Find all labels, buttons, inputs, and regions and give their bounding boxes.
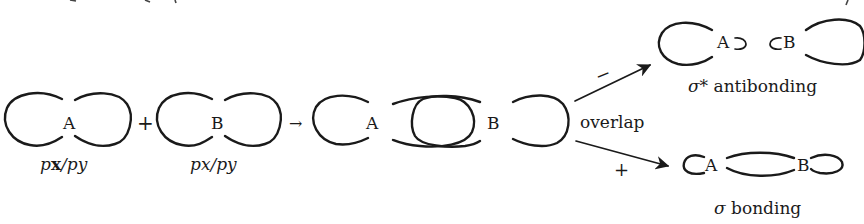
atom-label-a: A [704,155,718,175]
sigma-bonding-orbital: A B σ bonding [684,153,843,218]
orbital-lobe-left [5,93,62,146]
lobe-b-inner [412,96,480,147]
lobe-b-outer [513,95,569,145]
atom-label-b: B [797,155,810,175]
cropped-text-fragment [70,0,848,5]
lobe-b-node [770,38,781,49]
lobe-a-outer [313,96,368,145]
orbital-label-b: px/py [190,154,237,174]
atom-label-a: A [716,32,730,52]
orbital-lobe-right [75,93,131,146]
atom-label-b: B [211,113,224,133]
atom-label-a: A [62,113,76,133]
lobe-a-outer [659,23,712,65]
bonding-label: σ bonding [714,198,801,218]
positive-sign: + [614,159,629,180]
lobe-b-outer [811,155,842,174]
antibonding-label: σ* antibonding [688,76,817,96]
bonding-lobe-lower [727,168,794,176]
lobe-b-outer [806,20,864,65]
p-orbital-b: B px/py [157,93,281,174]
negative-sign: − [592,61,614,86]
orbital-label-a: px/py [40,154,88,174]
atom-label-b: B [783,32,796,52]
plus-operator: + [137,111,154,135]
orbital-lobe-left [157,93,212,146]
sigma-antibonding-orbital: A B σ* antibonding [659,20,864,96]
atom-label-b: B [487,113,500,133]
lobe-a-node [735,38,746,49]
orbital-overlap-diagram: A px/py + B px/py → A B overlap − + A B [0,0,864,224]
orbital-lobe-right [225,93,281,146]
overlapping-orbitals: A B [313,95,568,146]
overlap-label: overlap [580,112,645,132]
reaction-arrow: → [289,114,302,133]
antibonding-arrow [575,65,650,101]
bonding-lobe [727,153,794,158]
lobe-a-inner [393,96,474,146]
lobe-a-outer [684,155,704,174]
p-orbital-a: A px/py [5,93,131,174]
atom-label-a: A [365,113,379,133]
